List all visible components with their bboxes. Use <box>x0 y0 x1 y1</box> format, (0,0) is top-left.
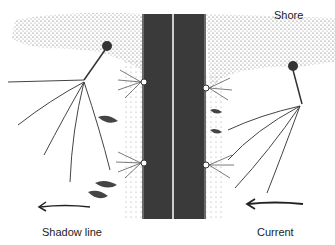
road <box>142 14 206 219</box>
shore-label: Shore <box>274 9 303 21</box>
shadow-line-label: Shadow line <box>42 226 102 238</box>
right-embankment <box>206 75 224 220</box>
left-shore <box>12 13 142 70</box>
shadow-line-arrow <box>39 202 90 211</box>
current-label: Current <box>257 226 294 238</box>
bridge-diagram <box>0 0 335 245</box>
left-lamp-icon <box>102 41 112 51</box>
right-lamp-icon <box>288 61 298 71</box>
right-shore <box>206 14 335 90</box>
current-arrow <box>247 199 303 209</box>
